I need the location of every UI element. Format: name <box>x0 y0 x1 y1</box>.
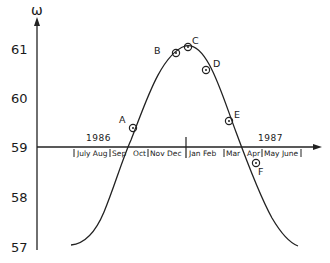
svg-text:A: A <box>119 114 126 125</box>
year-1986: 1986 <box>86 133 111 143</box>
month-oct: Oct <box>133 149 146 158</box>
x-axis: 1986 1987 July Aug Sep Oct Nov Dec Jan F… <box>37 133 322 158</box>
ytick-61: 61 <box>11 42 28 57</box>
y-axis-label: ω <box>31 2 43 18</box>
svg-text:D: D <box>213 58 220 69</box>
month-mar: Mar <box>226 149 241 158</box>
ytick-57: 57 <box>11 240 28 255</box>
point-f: F <box>252 159 263 177</box>
point-e: E <box>225 109 240 125</box>
chart: ω 61 60 59 58 57 1986 1987 July Aug Sep … <box>0 0 330 263</box>
svg-text:B: B <box>154 45 161 56</box>
svg-text:E: E <box>234 109 240 120</box>
ytick-59: 59 <box>11 140 28 155</box>
point-a: A <box>119 114 137 132</box>
month-july-aug: July Aug <box>76 149 108 158</box>
svg-text:F: F <box>258 166 263 177</box>
month-jan-feb: Jan Feb <box>188 149 216 158</box>
y-axis-arrow-icon <box>34 17 40 26</box>
year-1987: 1987 <box>258 133 283 143</box>
ytick-60: 60 <box>11 91 28 106</box>
point-d: D <box>202 58 220 74</box>
month-nov-dec: Nov Dec <box>150 149 182 158</box>
month-apr: Apr <box>247 149 261 158</box>
x-axis-arrow-icon <box>313 144 322 150</box>
svg-text:C: C <box>192 35 199 46</box>
ytick-58: 58 <box>11 190 28 205</box>
month-may-june: May June <box>264 149 299 158</box>
y-axis: ω 61 60 59 58 57 <box>11 2 43 255</box>
fitted-curve <box>71 46 298 246</box>
